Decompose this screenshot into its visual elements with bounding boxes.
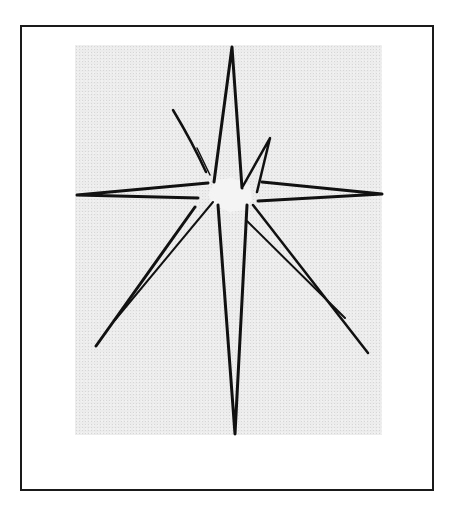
star-drawing-icon [0, 0, 467, 520]
